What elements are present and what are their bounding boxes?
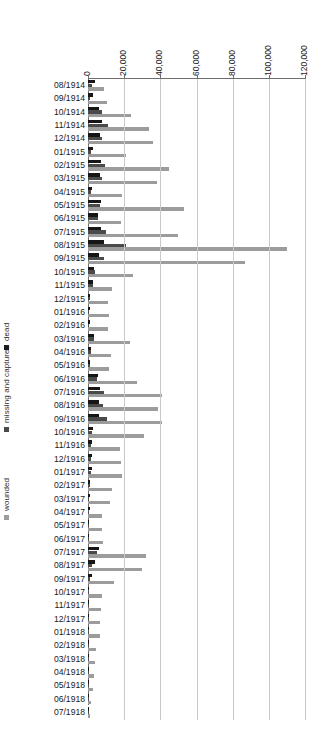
bar-wounded [88,167,169,170]
row-category-label: 09/1915 [0,252,85,265]
bar-wounded [88,488,112,491]
bar-wounded [88,354,111,357]
chart-row: 12/1915 [0,293,312,306]
chart-row: 06/1915 [0,212,312,225]
chart-row: 02/1917 [0,479,312,492]
casualties-bar-chart: 020,00040,00060,00080,000100,000120,000 … [0,0,312,741]
row-category-label: 03/1918 [0,653,85,666]
chart-row: 04/1915 [0,186,312,199]
chart-row: 09/1916 [0,413,312,426]
chart-row: 10/1914 [0,106,312,119]
x-tick-label: 0 [82,71,92,76]
bar-wounded [88,194,122,197]
x-tick-label: 20,000 [118,50,128,76]
x-tick-label: 60,000 [191,50,201,76]
chart-row: 06/1916 [0,373,312,386]
chart-row: 08/1916 [0,399,312,412]
gridline [124,79,125,720]
row-category-label: 12/1914 [0,132,85,145]
chart-row: 08/1914 [0,79,312,92]
chart-row: 06/1918 [0,693,312,706]
bar-wounded [88,314,109,317]
bar-wounded [88,701,91,704]
chart-row: 09/1915 [0,252,312,265]
bar-wounded [88,714,90,717]
row-category-label: 04/1917 [0,506,85,519]
row-category-label: 04/1915 [0,186,85,199]
row-category-label: 10/1915 [0,266,85,279]
row-category-label: 09/1917 [0,573,85,586]
chart-row: 07/1918 [0,706,312,719]
chart-row: 04/1916 [0,346,312,359]
chart-row: 01/1916 [0,306,312,319]
row-category-label: 11/1914 [0,119,85,132]
row-category-label: 02/1917 [0,479,85,492]
row-category-label: 10/1917 [0,586,85,599]
row-category-label: 04/1918 [0,666,85,679]
chart-row: 08/1917 [0,559,312,572]
bar-wounded [88,447,120,450]
row-category-label: 01/1916 [0,306,85,319]
row-category-label: 10/1916 [0,426,85,439]
row-category-label: 01/1917 [0,466,85,479]
chart-row: 12/1914 [0,132,312,145]
bar-wounded [88,528,102,531]
bar-wounded [88,621,100,624]
chart-row: 10/1916 [0,426,312,439]
bar-wounded [88,688,93,691]
row-category-label: 05/1917 [0,519,85,532]
gridline [269,79,270,720]
bar-wounded [88,181,157,184]
bar-wounded [88,141,153,144]
row-category-label: 03/1917 [0,493,85,506]
chart-row: 02/1916 [0,319,312,332]
bar-wounded [88,594,102,597]
bar-wounded [88,461,121,464]
bar-wounded [88,474,122,477]
chart-row: 05/1918 [0,679,312,692]
chart-row: 11/1916 [0,439,312,452]
bar-wounded [88,581,114,584]
chart-row: 05/1916 [0,359,312,372]
chart-row: 05/1917 [0,519,312,532]
row-category-label: 03/1916 [0,333,85,346]
bar-wounded [88,367,109,370]
row-category-label: 01/1918 [0,626,85,639]
bar-wounded [88,327,108,330]
x-tick-label: 120,000 [299,45,309,76]
bar-wounded [88,634,100,637]
x-tick-label: 80,000 [227,50,237,76]
chart-row: 11/1917 [0,599,312,612]
row-category-label: 08/1914 [0,79,85,92]
row-category-label: 08/1917 [0,559,85,572]
chart-row: 10/1917 [0,586,312,599]
row-category-label: 06/1915 [0,212,85,225]
row-category-label: 12/1916 [0,453,85,466]
bar-wounded [88,674,94,677]
gridline [305,79,306,720]
row-category-label: 11/1916 [0,439,85,452]
row-category-label: 06/1916 [0,373,85,386]
chart-row: 04/1917 [0,506,312,519]
chart-row: 06/1917 [0,533,312,546]
chart-row: 03/1917 [0,493,312,506]
chart-rows: 08/191409/191410/191411/191412/191401/19… [0,79,312,720]
chart-row: 01/1915 [0,146,312,159]
x-tick-label: 40,000 [154,50,164,76]
bar-wounded [88,127,149,130]
bar-wounded [88,207,184,210]
row-category-label: 10/1914 [0,106,85,119]
row-category-label: 07/1916 [0,386,85,399]
chart-row: 12/1917 [0,613,312,626]
chart-row: 02/1915 [0,159,312,172]
bar-wounded [88,301,108,304]
bar-wounded [88,648,96,651]
chart-row: 04/1918 [0,666,312,679]
row-category-label: 06/1918 [0,693,85,706]
bar-wounded [88,247,287,250]
bar-wounded [88,87,104,90]
row-category-label: 04/1916 [0,346,85,359]
bar-wounded [88,568,142,571]
row-category-label: 02/1918 [0,639,85,652]
chart-row: 08/1915 [0,239,312,252]
